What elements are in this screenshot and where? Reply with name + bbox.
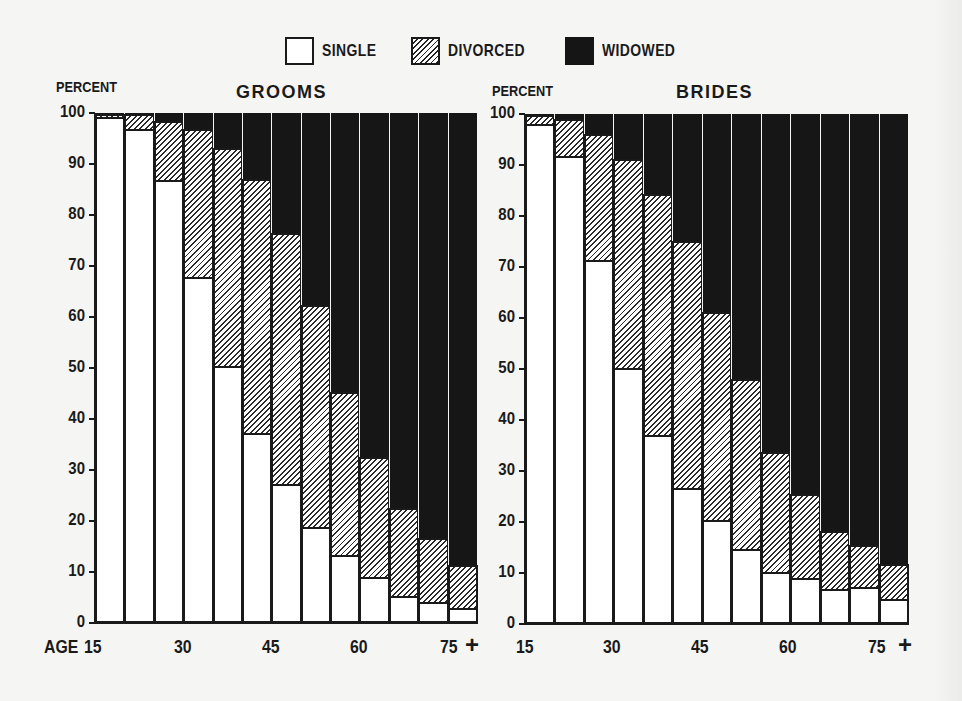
divorced-segment — [761, 452, 791, 572]
bar-70-74 — [418, 113, 448, 623]
widowed-segment — [301, 113, 331, 305]
brides-title: BRIDES — [676, 82, 753, 103]
divorced-segment — [154, 121, 184, 180]
grooms-x-tick-15: 15 — [84, 637, 102, 658]
grooms-y-axis-label: PERCENT — [56, 78, 117, 95]
widowed-segment — [330, 113, 360, 392]
divorced-segment — [124, 114, 154, 129]
bar-75+ — [879, 114, 909, 624]
single-segment — [124, 129, 154, 623]
y-axis-line — [94, 113, 96, 624]
divorced-segment — [448, 565, 478, 608]
single-segment — [820, 589, 850, 624]
widowed-segment — [879, 114, 909, 564]
brides-x-tick-15: 15 — [516, 637, 534, 658]
grooms-x-tick-60: 60 — [350, 637, 368, 658]
single-segment — [613, 368, 643, 624]
grooms-y-tick-20: 20 — [50, 510, 85, 530]
divorced-segment — [731, 379, 761, 549]
grooms-y-tick-100: 100 — [50, 102, 85, 122]
divorced-segment — [183, 129, 213, 277]
single-segment — [554, 156, 584, 624]
brides-y-tick-80: 80 — [480, 205, 515, 225]
single-segment — [731, 549, 761, 624]
single-segment — [584, 260, 614, 624]
grooms-title: GROOMS — [236, 82, 327, 103]
widowed-segment — [702, 114, 732, 312]
page-edge-shading — [935, 0, 962, 701]
single-segment — [418, 602, 448, 623]
divorced-segment — [879, 564, 909, 599]
legend: SINGLE DIVORCED WIDOWED — [0, 37, 962, 69]
brides-x-tick-45: 45 — [691, 637, 709, 658]
bar-15-19 — [95, 113, 125, 623]
divorced-segment — [213, 148, 243, 366]
divorced-segment — [242, 179, 272, 432]
bar-30-34 — [183, 113, 213, 623]
legend-label-widowed: WIDOWED — [602, 41, 675, 61]
divorced-segment — [359, 457, 389, 577]
x-axis-line — [524, 623, 909, 625]
brides-y-axis-label: PERCENT — [492, 82, 553, 99]
single-segment — [702, 520, 732, 624]
widowed-segment — [359, 113, 389, 457]
single-segment — [643, 435, 673, 624]
single-segment — [672, 488, 702, 624]
divorced-segment — [820, 531, 850, 589]
widowed-segment — [613, 114, 643, 159]
divorced-segment — [584, 134, 614, 260]
single-segment — [790, 578, 820, 624]
divorced-segment — [271, 233, 301, 484]
widowed-segment — [213, 113, 243, 148]
brides-y-tick-70: 70 — [480, 256, 515, 276]
divorced-segment — [790, 494, 820, 577]
brides-plot-area — [525, 114, 908, 624]
widowed-segment — [389, 113, 419, 508]
legend-label-single: SINGLE — [322, 41, 376, 61]
divorced-hatch-swatch-icon — [411, 37, 440, 65]
divorced-segment — [672, 241, 702, 488]
single-swatch-icon — [285, 37, 314, 65]
bar-55-59 — [761, 114, 791, 624]
single-segment — [213, 366, 243, 623]
grooms-y-tick-90: 90 — [50, 153, 85, 173]
bar-35-39 — [213, 113, 243, 623]
legend-item-widowed: WIDOWED — [565, 37, 691, 65]
brides-x-tick-60: 60 — [779, 637, 797, 658]
brides-y-tick-10: 10 — [480, 562, 515, 582]
brides-y-tick-100: 100 — [480, 103, 515, 123]
grooms-y-tick-30: 30 — [50, 459, 85, 479]
divorced-segment — [389, 508, 419, 596]
grooms-x-tick-45: 45 — [262, 637, 280, 658]
divorced-segment — [525, 115, 555, 124]
brides-x-tick-75: 75 — [868, 637, 886, 658]
bar-50-54 — [731, 114, 761, 624]
single-segment — [761, 572, 791, 624]
widowed-segment — [154, 113, 184, 121]
brides-x-tick-30: 30 — [603, 637, 621, 658]
grooms-y-tick-80: 80 — [50, 204, 85, 224]
brides-y-tick-30: 30 — [480, 460, 515, 480]
widowed-solid-swatch-icon — [565, 37, 594, 65]
single-segment — [389, 596, 419, 623]
single-segment — [448, 608, 478, 623]
single-segment — [330, 555, 360, 623]
single-segment — [154, 180, 184, 623]
divorced-segment — [702, 312, 732, 521]
grooms-y-tick-50: 50 — [50, 357, 85, 377]
grooms-y-tick-70: 70 — [50, 255, 85, 275]
brides-y-tick-20: 20 — [480, 511, 515, 531]
widowed-segment — [761, 114, 791, 452]
widowed-segment — [672, 114, 702, 241]
bar-20-24 — [124, 113, 154, 623]
divorced-segment — [418, 538, 448, 602]
bar-60-64 — [790, 114, 820, 624]
widowed-segment — [731, 114, 761, 379]
legend-label-divorced: DIVORCED — [448, 41, 525, 61]
grooms-x-tick-75: 75 — [440, 637, 458, 658]
bar-65-69 — [820, 114, 850, 624]
bar-40-44 — [242, 113, 272, 623]
divorced-segment — [330, 392, 360, 555]
grooms-plot-area — [95, 113, 477, 623]
divorced-segment — [554, 119, 584, 156]
